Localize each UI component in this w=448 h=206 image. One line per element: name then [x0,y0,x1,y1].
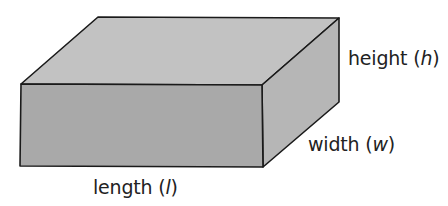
height-paren-open: ( [407,47,420,69]
width-variable: w [372,133,387,155]
width-paren-close: ) [388,133,395,155]
length-word: length [93,176,152,198]
height-variable: h [420,47,432,69]
height-paren-close: ) [432,47,439,69]
length-paren-open: ( [152,176,165,198]
length-paren-close: ) [171,176,178,198]
width-word: width [308,133,359,155]
height-label: height (h) [348,49,440,68]
width-label: width (w) [308,135,395,154]
length-label: length (l) [93,178,178,197]
width-paren-open: ( [359,133,372,155]
rectangular-prism-diagram [0,0,448,206]
front-face [20,84,263,167]
height-word: height [348,47,407,69]
